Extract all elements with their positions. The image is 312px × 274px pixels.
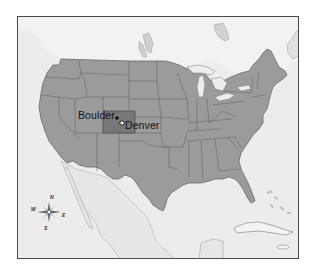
compass-rose [37,202,61,222]
compass-s: S [44,225,47,231]
cuba [234,222,293,235]
compass-n: N [50,194,54,200]
jamaica [277,245,289,249]
bahamas [267,190,291,214]
compass-w: W [31,206,36,212]
us-map [18,17,299,259]
compass-e: E [62,212,65,218]
map-frame [17,16,299,259]
boulder-marker [115,116,119,120]
denver-label: Denver [125,120,159,131]
boulder-label: Boulder [78,110,115,121]
yucatan [199,239,223,259]
denver-marker [120,121,124,125]
